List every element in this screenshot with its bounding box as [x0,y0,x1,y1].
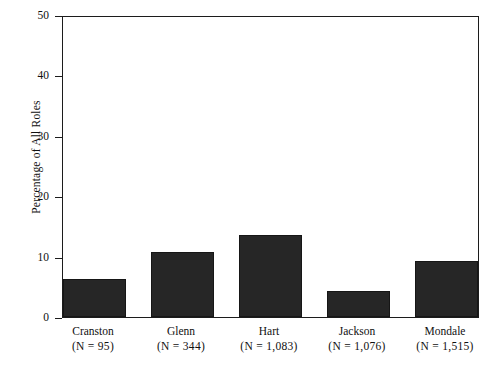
y-tick-mark [55,318,62,319]
x-label-name: Mondale [390,324,496,339]
bar-jackson [327,291,390,317]
y-tick-label: 30 [0,131,49,143]
y-tick-label: 0 [0,312,49,324]
x-axis-label-mondale: Mondale(N = 1,515) [390,324,496,354]
y-tick-label: 10 [0,252,49,264]
bar-chart-figure: Percentage of All Roles 01020304050 Cran… [0,0,496,372]
bar-series [63,17,478,317]
y-tick-label: 40 [0,70,49,82]
bar-glenn [151,252,214,317]
x-label-sample-size: (N = 1,515) [390,339,496,354]
y-tick-label: 50 [0,10,49,22]
y-tick-mark [55,197,62,198]
bar-mondale [415,261,478,317]
y-tick-mark [55,137,62,138]
bar-cranston [63,279,126,317]
y-tick-mark [55,258,62,259]
plot-area [62,16,479,318]
y-tick-mark [55,76,62,77]
y-tick-mark [55,16,62,17]
bar-hart [239,235,302,317]
y-tick-label: 20 [0,191,49,203]
